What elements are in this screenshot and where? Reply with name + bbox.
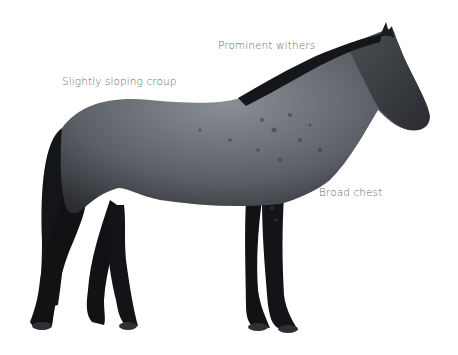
hoof <box>119 322 137 330</box>
horse-illustration <box>0 0 458 355</box>
hoof <box>32 322 52 330</box>
hoof <box>248 323 268 331</box>
label-prominent-withers: Prominent withers <box>218 39 315 51</box>
label-broad-chest: Broad chest <box>319 186 382 198</box>
label-slightly-sloping-croup: Slightly sloping croup <box>62 75 177 87</box>
front-leg-near <box>262 196 298 330</box>
hind-leg-near-2 <box>108 205 138 326</box>
hoof <box>278 325 298 333</box>
